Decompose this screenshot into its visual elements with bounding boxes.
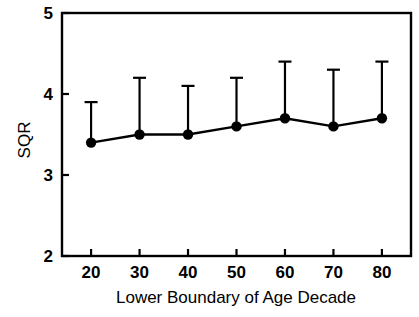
chart-svg: 2345 20304050607080 SQR Lower Boundary o… (0, 0, 419, 317)
data-point (280, 113, 290, 123)
y-tick-label: 2 (44, 247, 53, 266)
y-tick-label: 4 (44, 85, 54, 104)
x-tick-label: 20 (82, 263, 101, 282)
x-tick-label: 50 (227, 263, 246, 282)
x-tick-label: 30 (130, 263, 149, 282)
y-axis-title: SQR (15, 122, 34, 159)
x-tick-label: 80 (372, 263, 391, 282)
y-tick-label: 3 (44, 166, 53, 185)
x-tick-label: 60 (276, 263, 295, 282)
data-point (183, 129, 193, 139)
data-point (231, 121, 241, 131)
chart-container: 2345 20304050607080 SQR Lower Boundary o… (0, 0, 419, 317)
x-tick-label: 40 (179, 263, 198, 282)
data-point (328, 121, 338, 131)
data-point (86, 137, 96, 147)
data-point (134, 129, 144, 139)
y-tick-label: 5 (44, 4, 53, 23)
x-axis-title: Lower Boundary of Age Decade (116, 288, 356, 307)
data-point (377, 113, 387, 123)
x-tick-label: 70 (324, 263, 343, 282)
plot-frame (62, 13, 411, 256)
